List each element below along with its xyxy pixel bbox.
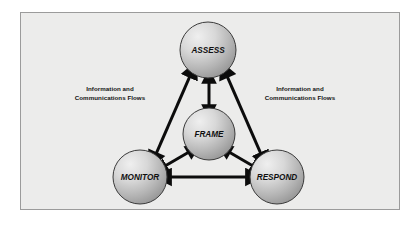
diagram-graphics: ASSESS FRAME MONITOR RESPOND: [0, 0, 419, 231]
node-monitor-label: MONITOR: [121, 173, 160, 182]
node-respond[interactable]: RESPOND: [250, 150, 304, 204]
node-monitor[interactable]: MONITOR: [113, 150, 167, 204]
connector-frame-monitor: [165, 152, 189, 166]
flow-label-left-line2: Communications Flows: [62, 94, 158, 103]
diagram-canvas: ASSESS FRAME MONITOR RESPOND Information…: [0, 0, 419, 231]
node-respond-label: RESPOND: [257, 173, 298, 182]
flow-label-right-line2: Communications Flows: [252, 94, 348, 103]
flow-label-right-line1: Information and: [252, 85, 348, 94]
flow-label-left-line1: Information and: [62, 85, 158, 94]
node-frame-label: FRAME: [194, 130, 224, 139]
flow-label-left: Information and Communications Flows: [62, 85, 158, 103]
flow-label-right: Information and Communications Flows: [252, 85, 348, 103]
node-frame[interactable]: FRAME: [183, 108, 235, 160]
node-assess-label: ASSESS: [190, 46, 225, 55]
connector-frame-respond: [229, 152, 253, 166]
node-assess[interactable]: ASSESS: [180, 22, 236, 78]
